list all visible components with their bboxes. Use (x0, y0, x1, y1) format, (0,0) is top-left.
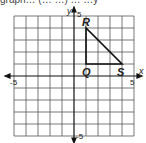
y-tick-min: -5 (76, 133, 83, 141)
y-axis-up-arrow-icon (72, 7, 76, 12)
point-label-q: Q (82, 67, 91, 78)
point-label-s: S (117, 67, 124, 78)
y-axis-label: y (67, 7, 72, 16)
x-axis-label: x (139, 67, 144, 76)
point-label-r: R (82, 17, 90, 28)
triangle-rqs (86, 28, 122, 64)
x-tick-max: 5 (130, 79, 134, 87)
x-tick-min: -5 (10, 79, 17, 87)
y-tick-max: 5 (77, 11, 81, 19)
